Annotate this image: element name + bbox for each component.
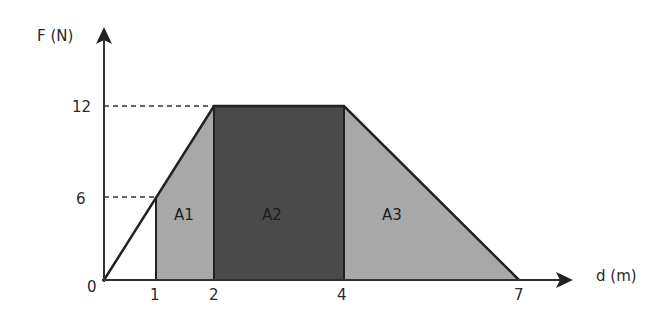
force-distance-diagram: F (N) d (m) 12 6 0 1 2 4 7 A1 A2 A3 bbox=[0, 0, 671, 324]
tick-x1: 1 bbox=[150, 286, 160, 304]
area-label-a3: A3 bbox=[382, 206, 402, 224]
region-a1 bbox=[156, 106, 214, 280]
tick-y6: 6 bbox=[76, 190, 86, 208]
tick-y12: 12 bbox=[72, 98, 91, 116]
tick-x7: 7 bbox=[514, 286, 524, 304]
area-label-a2: A2 bbox=[262, 206, 282, 224]
tick-origin: 0 bbox=[87, 278, 97, 296]
x-axis-label: d (m) bbox=[596, 267, 637, 285]
tick-x4: 4 bbox=[337, 286, 347, 304]
y-axis-label: F (N) bbox=[37, 27, 73, 45]
tick-x2: 2 bbox=[209, 286, 219, 304]
area-label-a1: A1 bbox=[174, 206, 194, 224]
region-a2 bbox=[214, 106, 344, 280]
